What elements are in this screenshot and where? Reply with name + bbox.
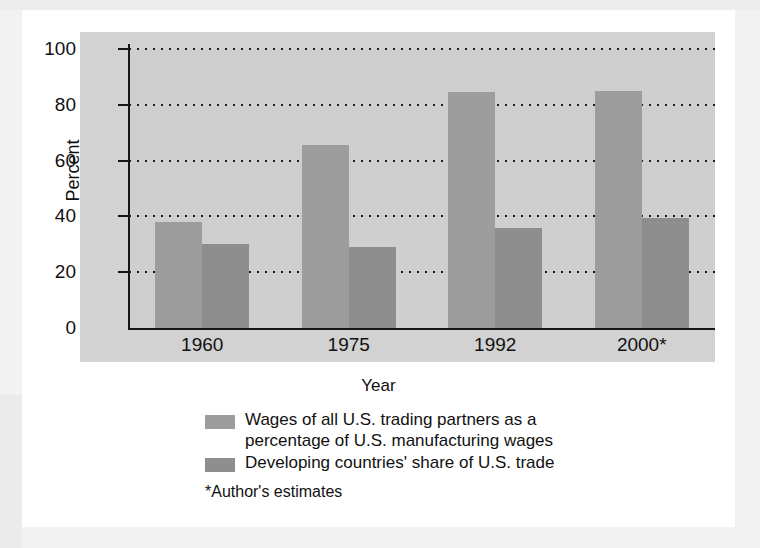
y-axis-line	[128, 44, 130, 330]
figure-footnote: *Author's estimates	[205, 483, 342, 501]
series-0-swatch-icon	[205, 415, 235, 429]
x-axis-label-1975: 1975	[289, 334, 409, 356]
screenshot-root: 1960197519922000* 020406080100 Percent Y…	[0, 0, 760, 548]
plot-wrapper: 1960197519922000*	[80, 32, 715, 362]
legend-item-developing: Developing countries' share of U.S. trad…	[205, 453, 705, 474]
chart-panel: 1960197519922000* 020406080100 Percent	[80, 32, 715, 362]
legend-item-wages-label: Wages of all U.S. trading partners as a …	[245, 410, 553, 451]
x-axis-line	[128, 328, 715, 330]
legend-item-developing-label: Developing countries' share of U.S. trad…	[245, 453, 554, 474]
series-1-swatch-icon	[205, 458, 235, 472]
y-axis-title: Percent	[63, 139, 84, 201]
legend-wages-line2: percentage of U.S. manufacturing wages	[245, 431, 553, 450]
y-axis-label-80: 80	[32, 95, 76, 114]
bar-1975-series0	[302, 145, 349, 328]
page-left-edge-band	[0, 395, 22, 548]
legend-item-wages: Wages of all U.S. trading partners as a …	[205, 410, 705, 451]
x-axis-label-1960: 1960	[142, 334, 262, 356]
x-axis-label-2000: 2000*	[582, 334, 702, 356]
bar-2000-series1	[642, 218, 689, 328]
y-axis-label-0: 0	[32, 318, 76, 337]
y-axis-label-20: 20	[32, 262, 76, 281]
y-axis-label-40: 40	[32, 206, 76, 225]
bar-1960-series1	[202, 244, 249, 328]
bar-1992-series0	[448, 92, 495, 328]
bar-1975-series1	[349, 247, 396, 328]
chart-legend: Wages of all U.S. trading partners as a …	[205, 410, 705, 476]
x-axis-title: Year	[22, 376, 735, 396]
bar-2000-series0	[595, 91, 642, 328]
bar-1992-series1	[495, 228, 542, 328]
y-axis-label-100: 100	[32, 39, 76, 58]
gridline-100	[129, 48, 715, 50]
figure-card: 1960197519922000* 020406080100 Percent Y…	[22, 10, 735, 527]
page-top-edge-band	[0, 0, 760, 10]
legend-wages-line1: Wages of all U.S. trading partners as a	[245, 410, 536, 429]
bar-1960-series0	[155, 222, 202, 328]
x-axis-label-1992: 1992	[435, 334, 555, 356]
